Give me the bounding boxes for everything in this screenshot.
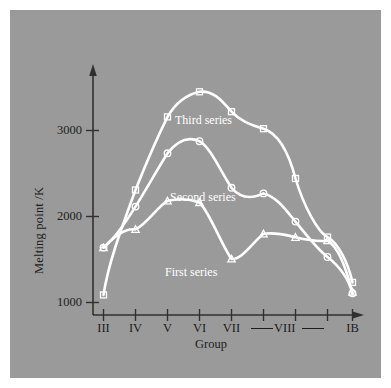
x-tick-label-IV: IV — [118, 321, 153, 336]
third-series-label: Third series — [175, 113, 232, 128]
second-series-label: Second series — [170, 190, 236, 205]
x-axis — [93, 311, 364, 319]
group-viii-label: VIII — [274, 321, 296, 336]
x-axis-title: Group — [195, 337, 227, 352]
y-tick-label-3000: 3000 — [38, 123, 82, 138]
x-axis-arrowhead — [352, 311, 364, 319]
second-series-curve — [104, 139, 353, 293]
first-series-label: First series — [165, 265, 217, 280]
plot-area: 3000 2000 1000 Melting point /K III IV V… — [10, 10, 381, 378]
group-viii-right-dash — [302, 328, 324, 329]
y-axis-arrowhead — [89, 64, 97, 76]
x-tick-label-V: V — [150, 321, 185, 336]
y-axis-title: Melting point /K — [32, 187, 47, 274]
x-tick-label-VI: VI — [182, 321, 217, 336]
y-axis — [89, 64, 97, 315]
group-viii-left-dash — [251, 328, 273, 329]
x-tick-label-III: III — [86, 321, 121, 336]
y-tick-label-1000: 1000 — [38, 295, 82, 310]
x-tick-label-IB: IB — [335, 321, 370, 336]
second-series-markers — [100, 138, 356, 297]
x-tick-label-VII: VII — [214, 321, 249, 336]
figure-panel: 3000 2000 1000 Melting point /K III IV V… — [10, 10, 381, 378]
